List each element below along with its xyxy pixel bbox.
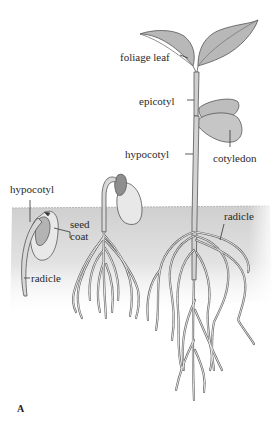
label-seed-coat-line2: coat bbox=[70, 230, 88, 242]
label-hypocotyl-stage3: hypocotyl bbox=[125, 148, 169, 160]
label-radicle-stage1: radicle bbox=[31, 272, 61, 284]
label-seed-coat-line1: seed bbox=[70, 218, 90, 230]
label-radicle-stage3: radicle bbox=[224, 210, 254, 222]
seedling-germination-diagram: hypocotyl seed coat radicle foliage leaf… bbox=[0, 0, 276, 425]
panel-letter: A bbox=[17, 403, 24, 414]
label-foliage-leaf: foliage leaf bbox=[120, 51, 170, 63]
label-hypocotyl-stage1: hypocotyl bbox=[10, 183, 54, 195]
label-epicotyl: epicotyl bbox=[139, 95, 174, 107]
label-cotyledon: cotyledon bbox=[213, 152, 256, 164]
